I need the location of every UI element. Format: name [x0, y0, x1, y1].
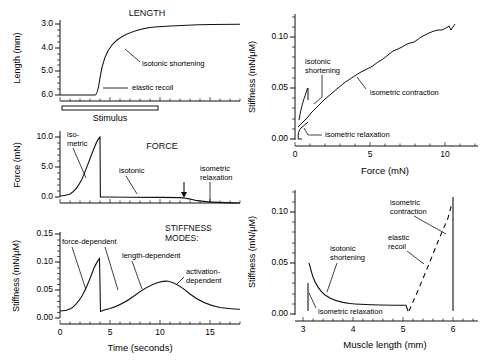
sf-ylabel-005: 0.05 [271, 82, 288, 92]
annot-sl-isometric-relaxation: isometric relaxation [318, 307, 383, 316]
annot-activation-dependent-2: dependent [186, 276, 222, 285]
force-axis-title: Force (mN) [12, 142, 22, 188]
st-xlabel-15: 15 [205, 327, 215, 337]
stiffness-time-axis-title: Stiffness (mN/μM) [11, 240, 21, 312]
sf-isometric-relaxation-trace [298, 122, 308, 139]
sl-ylabel-000: 0.00 [271, 308, 288, 318]
force-dependent-leader [72, 247, 86, 290]
stimulus-label: Stimulus [93, 113, 128, 123]
sf-ylabel-000: 0.00 [271, 133, 288, 143]
annot-isometric-line1: iso- [67, 130, 80, 139]
annot-activation-dependent-1: activation- [186, 267, 221, 276]
annot-isotonic: isotonic [119, 166, 145, 175]
stimulus-bar [62, 106, 158, 110]
annot-isometric-relax-line1: isometric [200, 164, 230, 173]
st-ylabel-000: 0.00 [36, 312, 53, 322]
annot-sf-isometric-relaxation: isometric relaxation [325, 130, 390, 139]
sf-xlabel-5: 5 [368, 149, 373, 159]
force-ylabel-0: 0.0 [41, 191, 53, 201]
sf-xaxis-title: Force (mN) [361, 165, 409, 176]
length-axis-title: Length (mm) [12, 32, 22, 83]
sl-xlabel-4: 4 [351, 324, 356, 334]
st-ylabel-010: 0.10 [36, 256, 53, 266]
muscle-mechanics-figure: LENGTH 3.0 4.0 5.0 6.0 Length (mm) [0, 0, 485, 361]
sl-xlabel-6: 6 [451, 324, 456, 334]
sl-xlabel-5: 5 [401, 324, 406, 334]
annot-isometric-relax-line2: relaxation [200, 173, 233, 182]
annot-sl-isotonic-2: shortening [330, 253, 365, 262]
length-ylabel-3: 3.0 [41, 18, 53, 28]
sl-isometric-contraction-leader [414, 216, 446, 234]
sl-xaxis-title: Muscle length (mm) [343, 339, 426, 350]
sl-isotonic-shortening-leader [327, 263, 337, 292]
isotonic-leader [126, 176, 137, 194]
length-x-ticks [60, 97, 240, 101]
st-ylabel-005: 0.05 [36, 284, 53, 294]
st-ylabel-015: 0.15 [36, 228, 53, 238]
panel-length-title: LENGTH [129, 8, 166, 18]
activation-dependent-leader [176, 277, 184, 285]
st-xlabel-0: 0 [58, 327, 63, 337]
annot-sl-isometric-contraction-1: isometric [390, 198, 420, 207]
panel-length-vs-time: LENGTH 3.0 4.0 5.0 6.0 Length (mm) [12, 8, 240, 123]
length-ylabel-4: 4.0 [41, 42, 53, 52]
sf-yaxis-title: Stiffness (mN/μM) [247, 41, 257, 113]
sf-ylabel-010: 0.10 [271, 31, 288, 41]
length-ylabel-5: 5.0 [41, 65, 53, 75]
panel-stiffness-title-line2: MODES: [165, 233, 199, 243]
sf-xlabel-0: 0 [293, 149, 298, 159]
panel-stiffness-title-line1: STIFFNESS [165, 223, 212, 233]
sf-xlabel-10: 10 [440, 149, 450, 159]
sl-yaxis-title: Stiffness (mN/μM) [247, 216, 257, 288]
annot-isotonic-shortening: isotonic shortening [142, 59, 205, 68]
length-dependent-leader [132, 261, 142, 289]
annot-sl-elastic-1: elastic [388, 233, 410, 242]
panel-stiffness-vs-force: 0.10 0.05 0.00 Stiffness (mN/μM) 0 5 10 … [247, 14, 478, 176]
isometric-leader [73, 148, 86, 178]
sl-xlabel-3: 3 [301, 324, 306, 334]
st-xlabel-10: 10 [155, 327, 165, 337]
stiffness-time-xaxis-title: Time (seconds) [107, 342, 172, 353]
annot-isometric-line2: metric [67, 139, 88, 148]
sl-elastic-recoil-leader [407, 251, 424, 264]
sl-ylabel-005: 0.05 [271, 257, 288, 267]
panel-stiffness-vs-muscle-length: 0.10 0.05 0.00 Stiffness (mN/μM) 3 4 5 6… [247, 190, 478, 350]
force-ylabel-5: 5.0 [41, 161, 53, 171]
sl-ylabel-010: 0.10 [271, 206, 288, 216]
annot-sl-elastic-2: recoil [388, 242, 406, 251]
annot-sl-isometric-contraction-2: contraction [390, 207, 427, 216]
sl-x-ticks [303, 317, 473, 321]
force-arrow-marker [181, 182, 187, 198]
annot-sf-isometric-contraction: isometric contraction [370, 88, 439, 97]
annot-sf-isotonic-2: shortening [305, 66, 340, 75]
annot-length-dependent: length-dependent [122, 251, 181, 260]
length-ylabel-6: 6.0 [41, 89, 53, 99]
panel-force-title: FORCE [146, 141, 178, 151]
isotonic-shortening-leader [125, 49, 140, 62]
stiffness-time-x-ticks [60, 320, 240, 324]
sl-isometric-relaxation-leader [309, 293, 316, 308]
force-dependent-leader-2 [105, 247, 118, 290]
annot-elastic-recoil: elastic recoil [132, 83, 174, 92]
st-xlabel-5: 5 [108, 327, 113, 337]
annot-sl-isotonic-1: isotonic [330, 244, 356, 253]
force-ylabel-10: 10.0 [36, 131, 53, 141]
sf-isometric-relaxation-leader-2 [304, 128, 308, 135]
sf-isometric-contraction-trace [298, 24, 455, 127]
annot-force-dependent: force-dependent [62, 237, 118, 246]
sl-isotonic-shortening-trace [309, 263, 408, 311]
sf-isotonic-shortening-trace [299, 88, 308, 120]
annot-sf-isotonic-1: isotonic [305, 57, 331, 66]
sf-x-ticks [295, 142, 475, 146]
sf-isometric-contraction-leader [357, 77, 366, 89]
panel-stiffness-vs-time: STIFFNESS MODES: 0.15 0.10 0.05 0.00 Sti… [11, 223, 240, 352]
panel-force-vs-time: FORCE 10.0 5.0 0.0 Force (mN) [12, 130, 240, 203]
